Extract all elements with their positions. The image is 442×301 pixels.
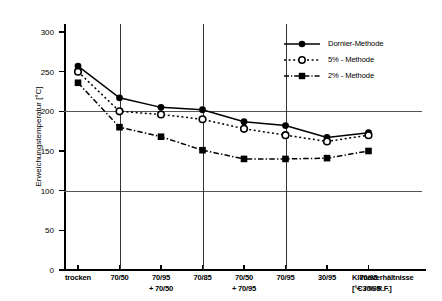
x-tick-label-2: 70/95+ 70/50 — [149, 273, 173, 293]
data-point-2-0 — [75, 79, 82, 86]
y-tick-0 — [59, 269, 65, 270]
data-point-2-4 — [241, 156, 248, 163]
data-point-2-7 — [365, 148, 372, 155]
chart-root: Erweichungstemperatur [°C] 0501001502002… — [0, 0, 442, 301]
x-tick-4 — [243, 265, 244, 271]
x-tick-label-1-line1: 70/50 — [110, 273, 128, 282]
x-tick-label-4-line2: + 70/95 — [232, 284, 256, 293]
data-point-1-4 — [241, 125, 248, 132]
legend-symbol-solid-circle-icon — [282, 36, 322, 52]
y-tick-250 — [59, 71, 65, 72]
x-tick-label-3-line1: 70/85 — [193, 273, 211, 282]
x-tick-label-4: 70/50+ 70/95 — [232, 273, 256, 293]
x-tick-label-4-line1: 70/50 — [235, 273, 253, 282]
x-tick-label-2-line1: 70/95 — [152, 273, 170, 282]
y-tick-label-250: 250 — [2, 67, 54, 76]
data-point-0-4 — [241, 118, 248, 125]
legend-item-dornier: Dornier-Methode — [282, 36, 432, 52]
x-tick-7 — [368, 265, 369, 271]
data-point-0-6 — [324, 134, 331, 141]
hgridline-200 — [64, 111, 422, 112]
vgridline-70-50 — [120, 24, 121, 270]
x-tick-3 — [202, 265, 203, 271]
legend-symbol-dotted-open-circle-icon — [282, 52, 322, 68]
x-tick-1 — [119, 265, 120, 271]
x-tick-5 — [285, 265, 286, 271]
legend: Dornier-Methode 5% - Methode 2% - Method… — [282, 36, 432, 84]
x-tick-label-3: 70/85 — [193, 273, 211, 282]
x-tick-label-5-line1: 70/95 — [276, 273, 294, 282]
x-tick-label-0-line1: trocken — [65, 273, 91, 282]
y-tick-50 — [59, 230, 65, 231]
legend-item-5-percent: 5% - Methode — [282, 52, 432, 68]
x-tick-label-6: 30/95 — [318, 273, 336, 282]
x-tick-6 — [326, 265, 327, 271]
legend-symbol-dashdot-square-icon — [282, 68, 322, 84]
legend-label-2-percent: 2% - Methode — [328, 71, 374, 80]
x-axis-title-line1: Klimaverhältnisse — [352, 273, 414, 282]
x-tick-label-0: trocken — [65, 273, 91, 282]
data-point-1-6 — [324, 138, 331, 145]
x-tick-2 — [160, 265, 161, 271]
vgridline-70-85 — [203, 24, 204, 270]
legend-label-dornier: Dornier-Methode — [328, 39, 383, 48]
y-axis-line — [64, 24, 66, 270]
x-tick-0 — [77, 265, 78, 271]
data-point-0-2 — [158, 104, 165, 111]
data-point-1-7 — [365, 132, 372, 139]
data-point-1-0 — [75, 68, 82, 75]
y-tick-150 — [59, 150, 65, 151]
x-tick-label-5: 70/95 — [276, 273, 294, 282]
data-point-0-0 — [75, 63, 82, 70]
x-tick-label-1: 70/50 — [110, 273, 128, 282]
y-tick-label-200: 200 — [2, 107, 54, 116]
y-tick-label-50: 50 — [2, 226, 54, 235]
data-point-2-6 — [324, 155, 331, 162]
y-tick-label-150: 150 — [2, 147, 54, 156]
y-tick-label-300: 300 — [2, 28, 54, 37]
data-point-0-7 — [365, 129, 372, 136]
x-tick-label-2-line2: + 70/50 — [149, 284, 173, 293]
y-tick-300 — [59, 31, 65, 32]
legend-item-2-percent: 2% - Methode — [282, 68, 432, 84]
x-axis-title-line2: [°C / % R.F.] — [352, 284, 414, 293]
legend-label-5-percent: 5% - Methode — [328, 55, 374, 64]
hgridline-100 — [64, 191, 422, 192]
series-line-2 — [78, 83, 369, 159]
x-tick-label-6-line1: 30/95 — [318, 273, 336, 282]
y-tick-label-0: 0 — [2, 266, 54, 275]
x-axis-title: Klimaverhältnisse [°C / % R.F.] — [352, 273, 414, 293]
y-tick-label-100: 100 — [2, 186, 54, 195]
data-point-2-2 — [158, 133, 165, 140]
